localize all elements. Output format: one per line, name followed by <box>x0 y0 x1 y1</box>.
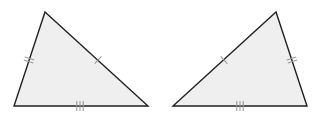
right-triangle <box>173 12 307 111</box>
left-triangle <box>14 12 148 111</box>
right-triangle-outline <box>173 12 307 106</box>
geometry-figure-canvas <box>0 0 318 121</box>
left-triangle-outline <box>14 12 148 106</box>
congruent-triangles-diagram <box>0 0 318 121</box>
